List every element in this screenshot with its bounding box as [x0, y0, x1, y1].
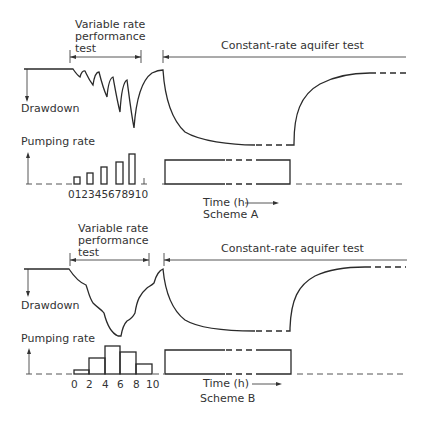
time-tick-6: 6: [117, 378, 124, 390]
time-tick-8: 8: [133, 378, 140, 390]
time-ticks: 012345678910: [68, 188, 148, 200]
time-tick-2: 2: [86, 378, 93, 390]
drawdown-label: Drawdown: [21, 103, 79, 115]
constant-rate-label: Constant-rate aquifer test: [221, 40, 364, 52]
variable-rate-label-line3: test: [75, 43, 96, 55]
constant-rate-label: Constant-rate aquifer test: [221, 243, 364, 255]
scheme-b-graphics: [24, 253, 407, 386]
pumping-rate-label: Pumping rate: [21, 136, 95, 148]
scheme-caption: Scheme B: [200, 393, 255, 405]
pumping-rate-label: Pumping rate: [21, 333, 95, 345]
scheme-a-graphics: [24, 50, 406, 205]
time-tick-10: 10: [146, 378, 159, 390]
variable-rate-label-line3: test: [78, 247, 99, 259]
scheme-caption: Scheme A: [203, 209, 258, 221]
time-axis-label: Time (h): [203, 378, 249, 390]
time-tick-0: 0: [71, 378, 78, 390]
drawdown-label: Drawdown: [21, 300, 79, 312]
time-tick-4: 4: [102, 378, 109, 390]
